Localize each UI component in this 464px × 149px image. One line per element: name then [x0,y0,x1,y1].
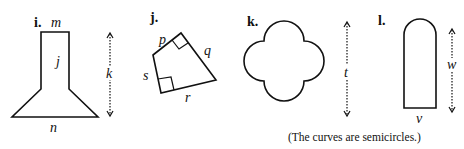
figure-number-l: l. [378,13,385,28]
figure-l: l. w v [378,13,458,126]
label-r: r [185,90,191,105]
label-w: w [447,57,457,72]
label-s: s [143,68,149,83]
label-p: p [158,32,166,47]
label-k: k [106,66,113,81]
figure-i: i. m j k n [12,15,116,135]
label-q: q [204,43,211,58]
right-angle-marker-top [172,40,188,49]
label-j: j [54,54,60,69]
figure-number-j: j. [149,10,158,25]
figure-number-i: i. [34,15,41,30]
label-v: v [416,111,423,126]
trapezoid-tower-shape [12,32,98,117]
label-n: n [50,120,57,135]
geometry-figures: i. m j k n j. p q r s k. t l. w v [0,0,464,149]
figure-k: k. t [244,14,353,116]
four-semicircle-shape [244,21,324,101]
figure-number-k: k. [247,14,258,29]
caption: (The curves are semicircles.) [288,131,421,144]
rectangle-semicircle-shape [404,19,436,108]
label-m: m [51,15,61,30]
figure-j: j. p q r s [143,10,216,105]
